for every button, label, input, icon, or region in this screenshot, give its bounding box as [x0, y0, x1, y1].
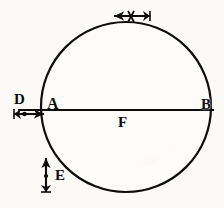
label-E: E — [55, 168, 65, 183]
engraving-figure: D A F E B — [0, 0, 224, 208]
sphere-diagram-svg — [0, 0, 224, 208]
label-A: A — [47, 96, 59, 112]
label-B: B — [201, 97, 211, 112]
label-D: D — [14, 92, 25, 107]
label-F: F — [118, 115, 127, 130]
